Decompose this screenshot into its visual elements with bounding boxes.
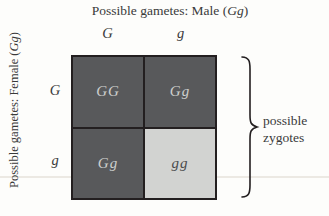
right-brace — [238, 53, 260, 201]
cell-Gg-bottom: Gg — [73, 129, 143, 199]
punnett-grid: GG Gg Gg gg — [71, 55, 217, 200]
female-label-text: Possible gametes: Female ( — [7, 52, 21, 188]
row-header-g: g — [44, 152, 66, 169]
female-gametes-axis-label: Possible gametes: Female (Gg) — [7, 32, 22, 188]
cell-GG: GG — [73, 57, 143, 127]
punnett-square-figure: Possible gametes: Male (Gg) Possible gam… — [0, 0, 329, 216]
zygotes-label-line1: possible — [263, 112, 307, 129]
female-label-close-paren: ) — [7, 32, 21, 36]
zygotes-label-line2: zygotes — [263, 129, 307, 146]
cell-gg: gg — [145, 129, 215, 199]
possible-zygotes-label: possible zygotes — [263, 112, 307, 146]
row-header-G: G — [44, 82, 66, 99]
column-header-G: G — [71, 25, 144, 43]
male-label-text: Possible gametes: Male ( — [92, 3, 227, 18]
female-genotype: Gg — [7, 36, 21, 51]
male-gametes-axis-label: Possible gametes: Male (Gg) — [11, 3, 329, 19]
column-header-g: g — [144, 25, 217, 43]
cell-Gg-top: Gg — [145, 57, 215, 127]
brace-path — [242, 57, 257, 197]
male-genotype: Gg — [227, 3, 244, 18]
male-label-close-paren: ) — [244, 3, 249, 18]
